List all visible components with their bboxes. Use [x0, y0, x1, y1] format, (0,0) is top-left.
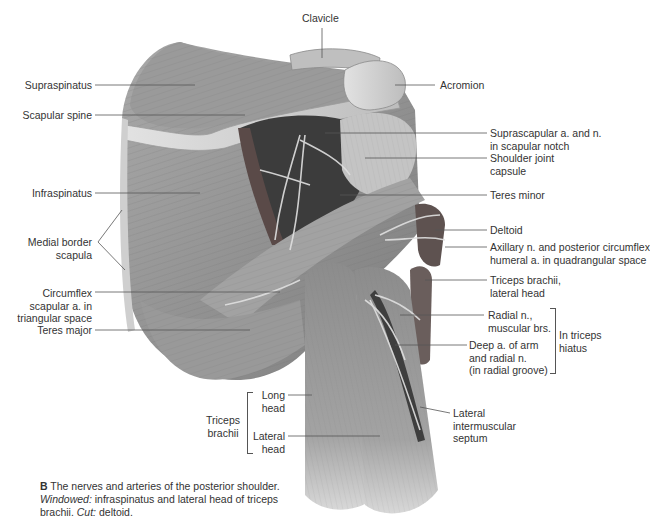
- label-infraspinatus: Infraspinatus: [10, 187, 92, 200]
- label-line: Axillary n. and posterior circumflex: [490, 241, 650, 254]
- brace-triceps-hiatus: [550, 308, 556, 374]
- caption-letter: B: [40, 480, 48, 492]
- label-deltoid: Deltoid: [490, 224, 523, 237]
- label-line: Radial n.,: [488, 309, 551, 322]
- caption-text: The nerves and arteries of the posterior…: [50, 480, 279, 492]
- label-line: scapular a. in: [10, 300, 92, 313]
- label-line: Circumflex: [10, 287, 92, 300]
- label-line: head: [245, 443, 285, 456]
- label-line: in scapular notch: [490, 140, 602, 153]
- label-lateral-intermuscular-septum: Lateral intermuscular septum: [453, 407, 516, 445]
- label-line: and radial n.: [469, 352, 548, 365]
- label-triceps-lateral-head: Triceps brachii, lateral head: [490, 274, 561, 299]
- label-line: Lateral: [245, 430, 285, 443]
- caption-cut-text: deltoid.: [99, 506, 133, 518]
- label-teres-major: Teres major: [10, 324, 92, 337]
- label-line: head: [245, 402, 285, 415]
- label-scapular-spine: Scapular spine: [10, 109, 92, 122]
- label-supraspinatus: Supraspinatus: [10, 79, 92, 92]
- label-line: brachii: [198, 427, 248, 440]
- label-line: scapula: [10, 249, 92, 262]
- label-acromion: Acromion: [440, 79, 484, 92]
- label-line: lateral head: [490, 287, 561, 300]
- figure-caption: B The nerves and arteries of the posteri…: [40, 480, 280, 519]
- label-line: intermuscular: [453, 420, 516, 433]
- label-radial-n-muscular: Radial n., muscular brs.: [488, 309, 551, 334]
- label-line: septum: [453, 432, 516, 445]
- label-medial-border-scapula: Medial border scapula: [10, 236, 92, 261]
- deltoid-cut: [415, 204, 445, 267]
- label-triceps-brachii: Triceps brachii: [198, 414, 248, 439]
- label-lateral-head: Lateral head: [245, 430, 285, 455]
- label-suprascapular-a-n: Suprascapular a. and n. in scapular notc…: [490, 127, 602, 152]
- label-line: Triceps: [198, 414, 248, 427]
- caption-windowed-label: Windowed:: [40, 493, 92, 505]
- label-line: capsule: [490, 165, 554, 178]
- label-line: Long: [245, 389, 285, 402]
- label-axillary-n: Axillary n. and posterior circumflex hum…: [490, 241, 650, 266]
- label-line: Shoulder joint: [490, 152, 554, 165]
- label-line: humeral a. in quadrangular space: [490, 254, 650, 267]
- label-line: Triceps brachii,: [490, 274, 561, 287]
- label-deep-a-of-arm: Deep a. of arm and radial n. (in radial …: [469, 339, 548, 377]
- label-line: Medial border: [10, 236, 92, 249]
- label-line: In triceps: [559, 329, 602, 342]
- label-line: Lateral: [453, 407, 516, 420]
- label-line: muscular brs.: [488, 322, 551, 335]
- caption-cut-label: Cut:: [77, 506, 96, 518]
- label-in-triceps-hiatus: In triceps hiatus: [559, 329, 602, 354]
- label-long-head: Long head: [245, 389, 285, 414]
- label-clavicle: Clavicle: [302, 12, 339, 25]
- label-line: Deep a. of arm: [469, 339, 548, 352]
- label-line: Suprascapular a. and n.: [490, 127, 602, 140]
- label-shoulder-joint-capsule: Shoulder joint capsule: [490, 152, 554, 177]
- label-teres-minor: Teres minor: [490, 189, 545, 202]
- label-circumflex-scapular-a: Circumflex scapular a. in triangular spa…: [10, 287, 92, 325]
- label-line: triangular space: [10, 312, 92, 325]
- label-line: hiatus: [559, 342, 602, 355]
- label-line: (in radial groove): [469, 364, 548, 377]
